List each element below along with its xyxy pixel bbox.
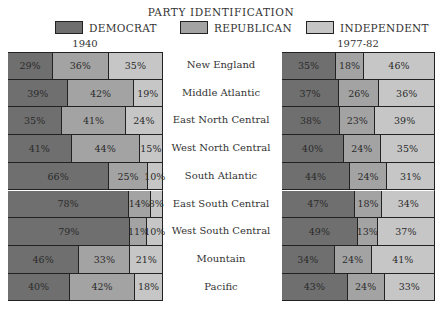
bar-row: 78%14%8% bbox=[8, 191, 163, 219]
legend-label-republican: REPUBLICAN bbox=[214, 22, 292, 34]
region-label: West South Central bbox=[160, 225, 282, 236]
bar-row: 41%44%15% bbox=[8, 135, 163, 163]
legend-label-democrat: DEMOCRAT bbox=[89, 22, 157, 34]
bar-row: 37%26%36% bbox=[282, 80, 435, 108]
bar-segment-democrat: 29% bbox=[8, 53, 53, 79]
legend-swatch-democrat bbox=[55, 21, 83, 34]
bar-segment-republican: 41% bbox=[62, 107, 126, 134]
bar-segment-independent: 35% bbox=[109, 53, 163, 79]
bar-segment-democrat: 46% bbox=[8, 246, 79, 273]
bar-segment-republican: 18% bbox=[355, 191, 383, 218]
legend-swatch-republican bbox=[180, 21, 208, 34]
chart-title: PARTY IDENTIFICATION bbox=[0, 6, 442, 18]
bar-row: 44%24%31% bbox=[282, 163, 435, 191]
bar-segment-democrat: 41% bbox=[8, 135, 72, 162]
bar-segment-democrat: 37% bbox=[282, 80, 339, 107]
bar-segment-republican: 25% bbox=[109, 163, 147, 190]
bar-segment-democrat: 40% bbox=[8, 274, 70, 301]
bar-segment-democrat: 47% bbox=[282, 191, 355, 218]
bar-segment-republican: 24% bbox=[335, 246, 372, 273]
legend-item-democrat: DEMOCRAT bbox=[55, 21, 157, 34]
bar-row: 40%24%35% bbox=[282, 135, 435, 163]
bar-segment-democrat: 79% bbox=[8, 218, 130, 245]
bar-segment-democrat: 66% bbox=[8, 163, 109, 190]
bar-segment-republican: 36% bbox=[53, 53, 109, 79]
bar-segment-independent: 46% bbox=[364, 53, 435, 79]
bar-row: 66%25%10% bbox=[8, 163, 163, 191]
bar-segment-democrat: 78% bbox=[8, 191, 129, 218]
panel-1940: 29%36%35%39%42%19%35%41%24%41%44%15%66%2… bbox=[8, 52, 163, 301]
bar-segment-republican: 33% bbox=[79, 246, 130, 273]
bar-segment-independent: 24% bbox=[126, 107, 163, 134]
bar-segment-independent: 31% bbox=[387, 163, 435, 190]
bar-row: 40%42%18% bbox=[8, 274, 163, 302]
bar-segment-independent: 39% bbox=[375, 107, 435, 134]
bar-segment-democrat: 38% bbox=[282, 107, 340, 134]
legend-label-independent: INDEPENDENT bbox=[340, 22, 429, 34]
bar-segment-democrat: 35% bbox=[282, 53, 336, 79]
bar-row: 79%11%10% bbox=[8, 218, 163, 246]
bar-row: 35%18%46% bbox=[282, 52, 435, 80]
bar-segment-republican: 23% bbox=[340, 107, 375, 134]
bar-row: 35%41%24% bbox=[8, 107, 163, 135]
bar-segment-republican: 26% bbox=[339, 80, 379, 107]
bar-segment-independent: 21% bbox=[130, 246, 163, 273]
bar-segment-republican: 13% bbox=[358, 218, 378, 245]
region-label: New England bbox=[160, 59, 282, 70]
bar-segment-independent: 33% bbox=[385, 274, 435, 301]
bar-segment-republican: 44% bbox=[72, 135, 140, 162]
legend-item-independent: INDEPENDENT bbox=[306, 21, 429, 34]
bar-row: 29%36%35% bbox=[8, 52, 163, 80]
bar-row: 34%24%41% bbox=[282, 246, 435, 274]
region-label: Mountain bbox=[160, 253, 282, 264]
bar-segment-democrat: 35% bbox=[8, 107, 62, 134]
bar-row: 47%18%34% bbox=[282, 191, 435, 219]
region-label: Pacific bbox=[160, 281, 282, 292]
legend: DEMOCRAT REPUBLICAN INDEPENDENT bbox=[0, 21, 442, 37]
bar-segment-republican: 42% bbox=[70, 274, 135, 301]
legend-swatch-independent bbox=[306, 21, 334, 34]
bar-row: 38%23%39% bbox=[282, 107, 435, 135]
bar-segment-democrat: 34% bbox=[282, 246, 335, 273]
panel-title-1940: 1940 bbox=[8, 38, 162, 49]
bar-segment-independent: 41% bbox=[372, 246, 435, 273]
panel-title-1977-82: 1977-82 bbox=[282, 38, 434, 49]
bar-segment-republican: 24% bbox=[348, 274, 385, 301]
bar-row: 49%13%37% bbox=[282, 218, 435, 246]
bar-row: 43%24%33% bbox=[282, 274, 435, 302]
bar-segment-republican: 42% bbox=[68, 80, 133, 107]
bar-segment-democrat: 40% bbox=[282, 135, 344, 162]
bar-segment-republican: 24% bbox=[344, 135, 381, 162]
panel-1977-82: 35%18%46%37%26%36%38%23%39%40%24%35%44%2… bbox=[282, 52, 435, 301]
bar-segment-democrat: 43% bbox=[282, 274, 348, 301]
region-label: East South Central bbox=[160, 198, 282, 209]
bar-segment-independent: 36% bbox=[379, 80, 435, 107]
bar-segment-republican: 18% bbox=[336, 53, 364, 79]
bar-segment-independent: 35% bbox=[381, 135, 435, 162]
legend-item-republican: REPUBLICAN bbox=[180, 21, 292, 34]
bar-segment-democrat: 39% bbox=[8, 80, 68, 107]
bar-segment-democrat: 44% bbox=[282, 163, 350, 190]
bar-segment-independent: 37% bbox=[378, 218, 435, 245]
bar-segment-republican: 24% bbox=[350, 163, 387, 190]
bar-segment-independent: 19% bbox=[134, 80, 163, 107]
bar-segment-independent: 34% bbox=[382, 191, 435, 218]
region-label: South Atlantic bbox=[160, 170, 282, 181]
bar-segment-independent: 18% bbox=[135, 274, 163, 301]
region-label: Middle Atlantic bbox=[160, 87, 282, 98]
region-label: East North Central bbox=[160, 114, 282, 125]
bar-row: 39%42%19% bbox=[8, 80, 163, 108]
region-label: West North Central bbox=[160, 142, 282, 153]
bar-segment-democrat: 49% bbox=[282, 218, 358, 245]
bar-segment-republican: 14% bbox=[129, 191, 151, 218]
bar-row: 46%33%21% bbox=[8, 246, 163, 274]
